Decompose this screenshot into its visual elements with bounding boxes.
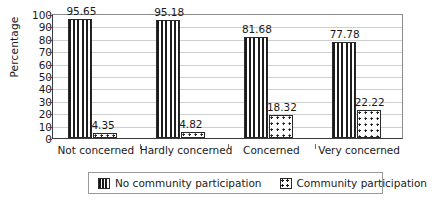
bar-value-label: 77.78: [330, 29, 360, 40]
bar-value-label: 18.32: [267, 102, 297, 113]
y-axis-tick-label: 70: [6, 47, 52, 57]
bar: [357, 110, 381, 138]
y-axis-tick-label: 100: [6, 10, 52, 20]
bar: [244, 37, 268, 138]
bar-chart: Percentage 1009080706050403020100 95.654…: [0, 0, 436, 205]
x-axis-category-label: Concerned: [228, 144, 316, 157]
bar: [332, 42, 356, 138]
legend-label: Community participation: [297, 177, 427, 189]
bar: [181, 132, 205, 138]
y-axis-tick-label: 10: [6, 122, 52, 132]
legend-item-no-community-participation: No community participation: [98, 177, 262, 189]
x-axis-category-label: Not concerned: [52, 144, 140, 157]
legend-swatch-dots-icon: [280, 178, 292, 189]
y-axis-tick-label: 20: [6, 109, 52, 119]
legend-item-community-participation: Community participation: [280, 177, 427, 189]
bar-value-label: 4.82: [179, 119, 202, 130]
chart-legend: No community participation Community par…: [88, 172, 383, 194]
legend-swatch-vertical-stripes-icon: [98, 178, 110, 189]
bar-value-label: 22.22: [355, 97, 385, 108]
y-axis-tick-label: 90: [6, 22, 52, 32]
y-axis-tick-label: 50: [6, 72, 52, 82]
bar: [156, 20, 180, 138]
bar: [93, 133, 117, 138]
y-axis-tick-label: 0: [6, 134, 52, 144]
bar-value-label: 95.18: [154, 7, 184, 18]
y-axis-tick-label: 60: [6, 60, 52, 70]
bar: [68, 19, 92, 138]
x-axis-categories: Not concernedHardly concernedConcernedVe…: [52, 144, 403, 160]
bar: [269, 115, 293, 138]
x-axis-category-label: Hardly concerned: [140, 144, 228, 157]
bar-value-label: 95.65: [66, 6, 96, 17]
y-axis-tick-label: 30: [6, 97, 52, 107]
y-axis: 1009080706050403020100: [0, 14, 52, 140]
plot-area: 95.654.3595.184.8281.6818.3277.7822.22: [52, 14, 403, 139]
y-axis-tick-label: 40: [6, 84, 52, 94]
y-axis-tick-mark: [48, 139, 52, 140]
bar-value-label: 81.68: [242, 24, 272, 35]
legend-label: No community participation: [115, 177, 262, 189]
x-axis-category-label: Very concerned: [315, 144, 403, 157]
bar-value-label: 4.35: [91, 120, 114, 131]
y-axis-tick-label: 80: [6, 35, 52, 45]
